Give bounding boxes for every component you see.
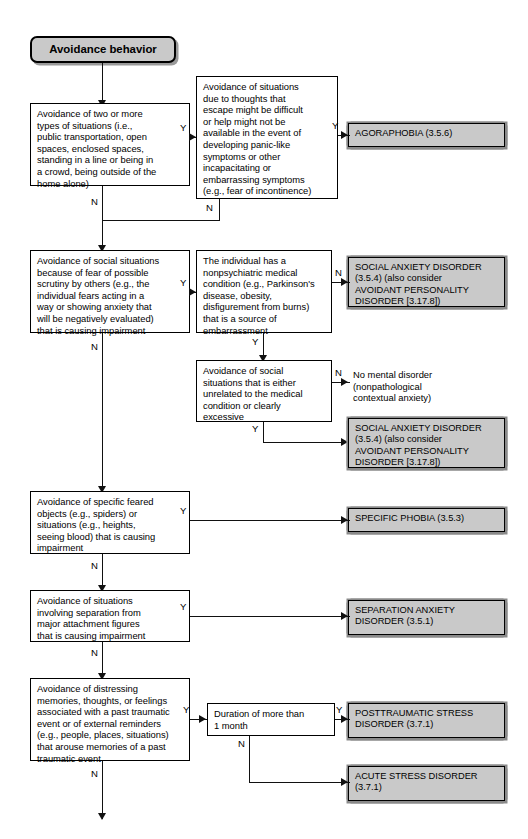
- edge-label-q4-no: N: [335, 268, 342, 278]
- connector-start-to-q1: [102, 63, 103, 103]
- connector-q9-no-v: [249, 736, 250, 783]
- node-q-agoraphobia-thoughts: Avoidance of situations due to thoughts …: [196, 76, 338, 199]
- node-dx-social-anxiety-1: SOCIAL ANXIETY DISORDER (3.5.4) (also co…: [348, 257, 505, 307]
- connector-q2-no-v: [219, 199, 220, 221]
- connector-q1-no: [102, 186, 103, 250]
- connector-q6-yes: [190, 520, 350, 521]
- node-dx-separation-anxiety: SEPARATION ANXIETY DISORDER (3.5.1): [348, 600, 505, 635]
- edge-label-q9-no: N: [238, 739, 245, 749]
- connector-q8-no: [102, 761, 103, 819]
- edge-label-q3-no: N: [91, 342, 98, 352]
- node-dx-acute-stress: ACUTE STRESS DISORDER (3.7.1): [348, 766, 505, 801]
- edge-label-q3-yes: Y: [180, 278, 186, 288]
- node-dx-social-anxiety-2: SOCIAL ANXIETY DISORDER (3.5.4) (also co…: [348, 418, 505, 468]
- edge-label-q1-no: N: [91, 197, 98, 207]
- arrowhead-q4-no: [341, 278, 348, 286]
- node-q-medical-condition: The individual has a nonpsychiatric medi…: [196, 250, 332, 333]
- node-q-separation: Avoidance of situations involving separa…: [30, 590, 190, 642]
- arrowhead-q6-yes: [341, 516, 348, 524]
- edge-label-q2-yes: Y: [332, 121, 338, 131]
- connector-q5-yes-h: [263, 442, 350, 443]
- arrowhead-q8-yes: [199, 715, 206, 723]
- arrowhead-q9-yes: [341, 715, 348, 723]
- edge-label-q5-no: N: [335, 368, 342, 378]
- node-q-agoraphobia-situations: Avoidance of two or more types of situat…: [30, 103, 190, 186]
- node-q-trauma-avoidance: Avoidance of distressing memories, thoug…: [30, 678, 190, 761]
- arrowhead-q9-no: [341, 778, 348, 786]
- edge-label-q4-yes: Y: [252, 337, 258, 347]
- arrowhead-q1-yes: [189, 133, 196, 141]
- edge-label-q1-yes: Y: [180, 123, 186, 133]
- edge-label-q9-yes: Y: [336, 705, 342, 715]
- node-q-unrelated-or-excessive: Avoidance of social situations that is e…: [196, 360, 332, 422]
- edge-label-q2-no: N: [206, 203, 213, 213]
- connector-q5-yes-v: [263, 422, 264, 443]
- edge-label-q8-no: N: [91, 769, 98, 779]
- node-q-duration: Duration of more than 1 month: [207, 703, 335, 736]
- node-q-specific-phobia: Avoidance of specific feared objects (e.…: [30, 491, 190, 554]
- arrowhead-q7-yes: [341, 612, 348, 620]
- connector-q3-no: [102, 333, 103, 491]
- edge-label-q7-yes: Y: [180, 602, 186, 612]
- arrowhead-q8-no: [98, 813, 106, 820]
- arrowhead-q3-yes: [189, 288, 196, 296]
- node-q-social-scrutiny: Avoidance of social situations because o…: [30, 250, 190, 333]
- edge-label-q7-no: N: [91, 648, 98, 658]
- connector-q2-no-h: [102, 220, 220, 221]
- connector-q9-no-h: [249, 782, 350, 783]
- edge-label-q6-no: N: [91, 561, 98, 571]
- node-out-no-mental-disorder: No mental disorder (nonpathological cont…: [353, 369, 513, 404]
- edge-label-q5-yes: Y: [252, 424, 258, 434]
- node-dx-agoraphobia: AGORAPHOBIA (3.5.6): [348, 123, 505, 147]
- node-dx-ptsd: POSTTRAUMATIC STRESS DISORDER (3.7.1): [348, 703, 505, 738]
- arrowhead-q2-yes: [341, 131, 348, 139]
- edge-label-q6-yes: Y: [180, 506, 186, 516]
- arrowhead-q5-no: [341, 378, 348, 386]
- edge-label-q8-yes: Y: [183, 705, 189, 715]
- arrowhead-q5-yes: [341, 438, 348, 446]
- node-dx-specific-phobia: SPECIFIC PHOBIA (3.5.3): [348, 508, 505, 532]
- connector-q7-yes: [190, 616, 350, 617]
- node-start: Avoidance behavior: [30, 36, 176, 63]
- flowchart-canvas: Avoidance behavior Avoidance of two or m…: [0, 0, 528, 839]
